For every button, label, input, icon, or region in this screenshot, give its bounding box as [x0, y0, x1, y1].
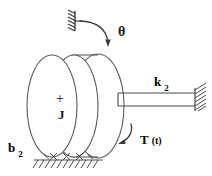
fixed-wall-right-icon	[195, 83, 206, 111]
label-spring-k2: k 2	[154, 74, 169, 90]
torsional-spring-shaft	[118, 93, 195, 106]
label-spring-symbol: k	[154, 74, 161, 90]
rotation-arrow-theta-icon	[80, 21, 111, 47]
diagram-canvas: θ + J k 2 b 2 T (t)	[0, 0, 212, 176]
label-torque: T (t)	[140, 132, 162, 148]
rotational-inertia-disk-body	[27, 54, 124, 158]
label-torque-argument: (t)	[152, 135, 162, 146]
label-damper-b2: b 2	[8, 140, 23, 156]
label-damper-subscript: 2	[18, 149, 23, 159]
disk-center-mark: +	[56, 92, 64, 106]
label-torque-symbol: T	[140, 132, 149, 148]
label-damper-symbol: b	[8, 140, 15, 156]
label-inertia-j: J	[58, 108, 65, 121]
label-spring-subscript: 2	[164, 83, 169, 93]
mechanical-system-drawing	[0, 0, 212, 176]
label-theta: θ	[118, 25, 125, 39]
